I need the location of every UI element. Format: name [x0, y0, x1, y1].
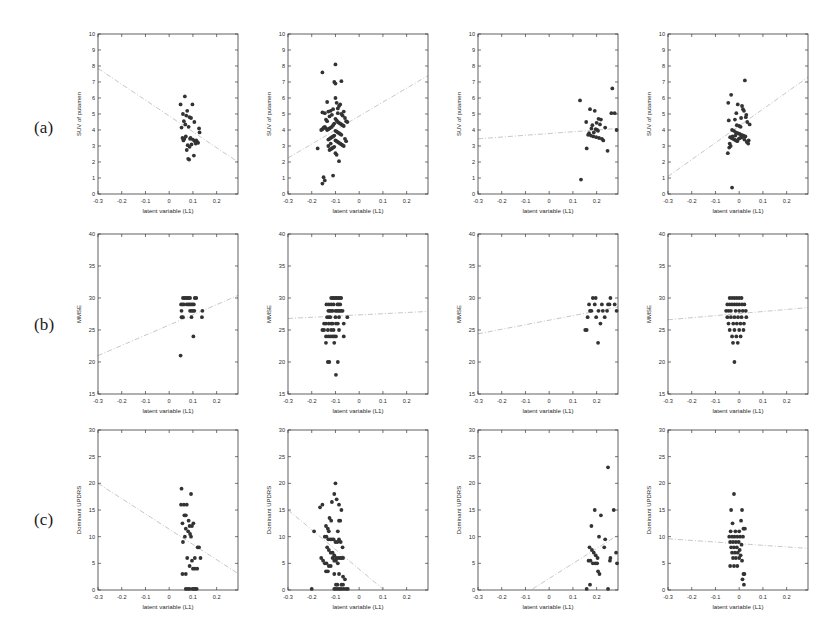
x-tick-label: 0.1 — [379, 398, 387, 404]
x-axis-title: latent variable (L1) — [712, 407, 763, 414]
y-tick-label: 7 — [472, 79, 475, 85]
y-axis-title: MMSE — [646, 305, 652, 323]
scatter-point — [327, 360, 331, 364]
x-tick-label: 0 — [358, 594, 361, 600]
scatter-point — [343, 577, 347, 581]
plot-frame — [98, 234, 238, 394]
scatter-point — [596, 556, 600, 560]
scatter-point — [741, 577, 745, 581]
scatter-point — [181, 112, 185, 116]
x-tick-label: 0.2 — [403, 198, 411, 204]
scatter-point — [319, 128, 323, 132]
scatter-point — [730, 335, 734, 339]
y-tick-label: 20 — [659, 359, 665, 365]
scatter-point — [732, 564, 736, 568]
y-tick-label: 30 — [279, 295, 285, 301]
y-tick-label: 15 — [279, 391, 285, 397]
scatter-point — [744, 113, 748, 117]
scatter-point — [330, 500, 334, 504]
scatter-point — [321, 71, 325, 75]
x-tick-label: 0.1 — [189, 198, 197, 204]
scatter-point — [334, 481, 338, 485]
scatter-points — [727, 492, 746, 586]
y-tick-label: 25 — [279, 327, 285, 333]
x-tick-label: -0.1 — [521, 198, 531, 204]
y-tick-label: 40 — [469, 231, 475, 237]
plot-frame — [478, 430, 618, 590]
scatter-point — [743, 303, 747, 307]
scatter-point — [181, 540, 185, 544]
scatter-point — [597, 309, 601, 313]
scatter-point — [332, 303, 336, 307]
scatter-point — [194, 296, 198, 300]
scatter-point — [184, 114, 188, 118]
y-tick-label: 4 — [472, 127, 475, 133]
y-tick-label: 0 — [282, 191, 285, 197]
y-tick-label: 35 — [89, 263, 95, 269]
y-tick-label: 2 — [92, 159, 95, 165]
scatter-point — [180, 309, 184, 313]
scatter-points — [583, 296, 618, 345]
scatter-point — [187, 519, 191, 523]
scatter-point — [328, 315, 332, 319]
y-tick-label: 10 — [89, 31, 95, 37]
y-axis-title: SUV of putamen — [266, 92, 272, 136]
scatter-point — [726, 151, 730, 155]
scatter-point — [733, 360, 737, 364]
plot-frame — [288, 34, 428, 194]
x-tick-label: 0.2 — [593, 398, 601, 404]
scatter-point — [341, 545, 345, 549]
x-tick-label: 0.2 — [213, 398, 221, 404]
scatter-point — [741, 535, 745, 539]
scatter-point — [185, 556, 189, 560]
scatter-point — [334, 63, 338, 67]
scatter-point — [334, 315, 338, 319]
y-tick-label: 15 — [659, 391, 665, 397]
scatter-point — [743, 79, 747, 83]
x-tick-label: 0 — [548, 398, 551, 404]
x-tick-label: -0.1 — [141, 398, 151, 404]
scatter-point — [335, 101, 339, 105]
scatter-point — [739, 125, 743, 129]
x-tick-label: 0.2 — [403, 398, 411, 404]
plot-frame — [288, 234, 428, 394]
scatter-point — [737, 309, 741, 313]
y-tick-label: 8 — [282, 63, 285, 69]
y-tick-label: 40 — [279, 231, 285, 237]
y-tick-label: 6 — [472, 95, 475, 101]
scatter-point — [191, 103, 195, 107]
scatter-point — [603, 315, 607, 319]
scatter-point — [198, 131, 202, 135]
scatter-point — [189, 136, 193, 140]
scatter-point — [180, 487, 184, 491]
scatter-point — [338, 519, 342, 523]
scatter-point — [594, 296, 598, 300]
scatter-point — [179, 103, 183, 107]
y-tick-label: 15 — [89, 391, 95, 397]
y-tick-label: 7 — [662, 79, 665, 85]
x-tick-label: -0.2 — [307, 594, 317, 600]
scatter-point — [735, 322, 739, 326]
scatter-point — [734, 335, 738, 339]
scatter-point — [599, 322, 603, 326]
y-tick-label: 1 — [472, 175, 475, 181]
plot-frame — [288, 430, 428, 590]
x-tick-label: -0.3 — [663, 398, 673, 404]
scatter-point — [734, 111, 738, 115]
scatter-point — [727, 146, 731, 150]
scatter-point — [595, 561, 599, 565]
scatter-point — [601, 139, 605, 143]
scatter-point — [201, 309, 205, 313]
y-tick-label: 1 — [282, 175, 285, 181]
x-tick-label: 0 — [738, 398, 741, 404]
scatter-point — [729, 315, 733, 319]
y-tick-label: 20 — [469, 359, 475, 365]
scatter-point — [736, 315, 740, 319]
scatter-point — [729, 529, 733, 533]
scatter-point — [334, 82, 338, 86]
scatter-point — [326, 138, 330, 142]
y-tick-label: 5 — [662, 560, 665, 566]
y-tick-label: 15 — [469, 391, 475, 397]
scatter-point — [316, 147, 320, 151]
scatter-point — [192, 303, 196, 307]
